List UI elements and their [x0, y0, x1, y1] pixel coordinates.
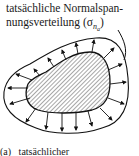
hatched-cross-section	[26, 52, 110, 113]
leader-line	[118, 30, 126, 60]
cross-section-diagram	[0, 0, 139, 156]
figure-caption: (a) tatsächlicher	[0, 146, 69, 156]
